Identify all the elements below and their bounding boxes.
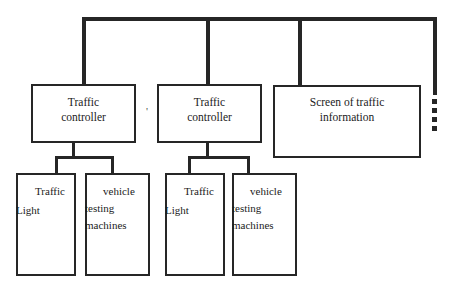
node-vehicle-testing-machines-1-line3: machines (85, 219, 127, 231)
connector-controller-2-bar (188, 156, 250, 159)
node-traffic-light-2-line2: Light (165, 204, 189, 216)
connector-controller-1-bar (55, 156, 114, 159)
node-traffic-controller-1-label: Traffic controller (33, 95, 134, 124)
bus-right-drop-line (433, 17, 437, 95)
node-vehicle-testing-machines-2-line2: testing (232, 202, 261, 214)
node-vehicle-testing-machines-1: vehicle testing machines (85, 173, 150, 276)
bus-drop-to-controller-2 (206, 19, 210, 85)
connector-controller-1-leg-left (55, 156, 58, 174)
stray-apostrophe-mark: ' (146, 106, 148, 117)
bus-drop-to-controller-1 (82, 19, 86, 85)
bus-horizontal-line (82, 17, 437, 21)
node-traffic-light-1: Traffic Light (16, 173, 76, 276)
connector-controller-1-leg-right (111, 156, 114, 174)
ellipsis-dot (432, 126, 437, 131)
connector-controller-2-leg-right (247, 156, 250, 174)
node-vehicle-testing-machines-2-line1: vehicle (250, 185, 282, 197)
bus-continuation-ellipsis-icon (432, 99, 438, 133)
node-traffic-controller-2-label: Traffic controller (159, 95, 260, 124)
ellipsis-dot (432, 117, 437, 122)
ellipsis-dot (432, 99, 437, 104)
node-vehicle-testing-machines-2: vehicle testing machines (232, 173, 297, 276)
node-vehicle-testing-machines-2-line3: machines (232, 219, 274, 231)
node-traffic-light-1-line2: Light (16, 204, 40, 216)
node-screen-of-traffic-information: Screen of traffic information (273, 85, 421, 158)
node-traffic-light-2: Traffic Light (165, 173, 225, 276)
node-vehicle-testing-machines-1-line2: testing (85, 202, 114, 214)
node-traffic-light-1-line1: Traffic (35, 185, 65, 197)
node-traffic-controller-2: Traffic controller (157, 84, 262, 143)
ellipsis-dot (432, 108, 437, 113)
connector-controller-2-leg-left (188, 156, 191, 174)
node-traffic-light-2-line1: Traffic (184, 185, 214, 197)
node-screen-of-traffic-information-label: Screen of traffic information (275, 95, 419, 124)
diagram-canvas: Traffic controller Traffic controller ' … (0, 0, 459, 293)
node-traffic-controller-1: Traffic controller (31, 84, 136, 143)
node-vehicle-testing-machines-1-line1: vehicle (103, 185, 135, 197)
bus-drop-to-screen (298, 19, 302, 86)
